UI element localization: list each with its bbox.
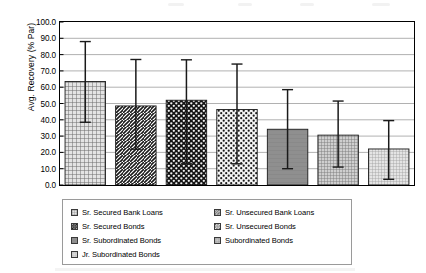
y-axis-tick-label: 80.0 xyxy=(10,50,56,59)
y-axis-tick-label: 30.0 xyxy=(10,132,56,141)
y-axis-tick-label: 70.0 xyxy=(10,66,56,75)
chart-legend: Sr. Secured Bank LoansSr. Unsecured Bank… xyxy=(62,199,352,265)
y-axis-tick-label: 50.0 xyxy=(10,99,56,108)
legend-item[interactable]: Sr. Secured Bonds xyxy=(71,222,214,231)
recovery-bar-chart: Avg. Recovery (% Par) 100.090.080.070.06… xyxy=(0,0,426,273)
legend-item-label: Sr. Secured Bank Loans xyxy=(82,208,163,217)
y-axis-tick-label: 100.0 xyxy=(10,18,56,27)
legend-item[interactable]: Sr. Unsecured Bank Loans xyxy=(214,208,361,217)
legend-swatch-light-grid xyxy=(71,251,78,258)
plot-canvas xyxy=(60,22,414,185)
y-axis-tick-label: 40.0 xyxy=(10,115,56,124)
legend-swatch-solid-gray xyxy=(71,237,78,244)
legend-item-label: Sr. Unsecured Bonds xyxy=(225,222,296,231)
y-axis-tick-label: 20.0 xyxy=(10,148,56,157)
legend-swatch-medium-grid xyxy=(214,237,221,244)
legend-item-label: Sr. Subordinated Bonds xyxy=(82,236,161,245)
scan-artifact-bottom xyxy=(55,268,355,271)
legend-item-label: Subordinated Bonds xyxy=(225,236,293,245)
y-axis-tick-label: 0.0 xyxy=(10,181,56,190)
plot-area xyxy=(59,21,415,186)
y-axis-tick-labels: 100.090.080.070.060.050.040.030.020.010.… xyxy=(8,0,56,273)
legend-item[interactable]: Jr. Subordinated Bonds xyxy=(71,250,214,259)
legend-swatch-dense-dots xyxy=(71,223,78,230)
legend-item-label: Sr. Secured Bonds xyxy=(82,222,144,231)
legend-item-label: Jr. Subordinated Bonds xyxy=(82,250,160,259)
y-axis-tick-label: 60.0 xyxy=(10,83,56,92)
legend-item[interactable]: Sr. Secured Bank Loans xyxy=(71,208,214,217)
legend-swatch-diagonal xyxy=(214,209,221,216)
legend-item-label: Sr. Unsecured Bank Loans xyxy=(225,208,314,217)
legend-item[interactable]: Sr. Unsecured Bonds xyxy=(214,222,361,231)
legend-swatch-sparse-dots xyxy=(214,223,221,230)
y-axis-tick-label: 90.0 xyxy=(10,34,56,43)
legend-item[interactable]: Sr. Subordinated Bonds xyxy=(71,236,214,245)
legend-item[interactable]: Subordinated Bonds xyxy=(214,236,361,245)
legend-swatch-fine-grid xyxy=(71,209,78,216)
y-axis-tick-label: 10.0 xyxy=(10,164,56,173)
